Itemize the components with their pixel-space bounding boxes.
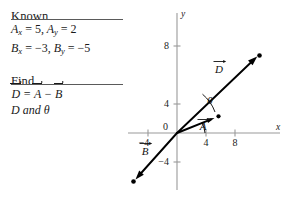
find-heading: Find — [11, 74, 34, 88]
vector-d-label: D — [214, 63, 223, 75]
given-find-panel: Known Ax = 5, Ay = 2 Bx = −3, By = −5 Fi… — [11, 6, 123, 118]
known-line-b: Bx = −3, By = −5 — [11, 41, 123, 59]
known-underline — [11, 19, 123, 20]
minus-sign: − — [42, 87, 55, 101]
y-axis-label: y — [180, 9, 186, 19]
xtick-8-label: 8 — [233, 137, 238, 148]
by-value: = −5 — [65, 41, 91, 55]
vector-diagram-svg: −4 4 8 4 8 −4 0 x y A — [123, 0, 287, 199]
vector-b-label: B — [142, 145, 149, 157]
vector-diagram: −4 4 8 4 8 −4 0 x y A — [123, 0, 287, 199]
known-heading-row: Known — [11, 6, 123, 21]
known-heading: Known — [11, 9, 48, 23]
figure-root: Known Ax = 5, Ay = 2 Bx = −3, By = −5 Fi… — [0, 0, 287, 199]
find-underline — [11, 84, 123, 85]
origin-label: 0 — [163, 121, 168, 132]
x-axis-label: x — [275, 122, 281, 132]
vector-a-label: A — [199, 120, 207, 132]
vector-b-endpoint-dot — [131, 179, 136, 184]
vector-b-label-arrowtip — [149, 142, 152, 145]
ytick-4-label: 4 — [164, 98, 169, 109]
theta-label: θ — [207, 94, 213, 106]
theta-annotation-group: θ — [203, 94, 216, 112]
ay-value: = 2 — [58, 22, 77, 36]
tick-labels-group: −4 4 8 4 8 −4 0 — [139, 40, 238, 167]
ax-value: = 5, — [22, 22, 44, 36]
find-unknowns: D and θ — [11, 103, 123, 118]
ay-symbol: A — [47, 22, 54, 36]
panel-spacer — [11, 60, 123, 71]
vector-d-label-arrowtip — [223, 60, 226, 63]
find-equation: D = A − B — [11, 87, 123, 102]
vector-d-endpoint-dot — [257, 53, 262, 58]
vector-a-group: A — [177, 114, 221, 133]
equals-sign: = — [21, 87, 34, 101]
vector-b-symbol: B — [55, 87, 63, 102]
known-line-a: Ax = 5, Ay = 2 — [11, 22, 123, 40]
vector-a-endpoint-dot — [216, 114, 220, 118]
xtick-4-label: 4 — [204, 137, 209, 148]
vector-d-symbol: D — [11, 87, 21, 102]
ytick-neg4-label: −4 — [158, 156, 169, 167]
vector-a-symbol: A — [33, 87, 41, 102]
ytick-8-label: 8 — [164, 40, 169, 51]
vector-d-group: D — [177, 53, 262, 133]
find-heading-row: Find — [11, 71, 123, 86]
by-symbol: B — [54, 41, 61, 55]
bx-value: = −3, — [22, 41, 51, 55]
